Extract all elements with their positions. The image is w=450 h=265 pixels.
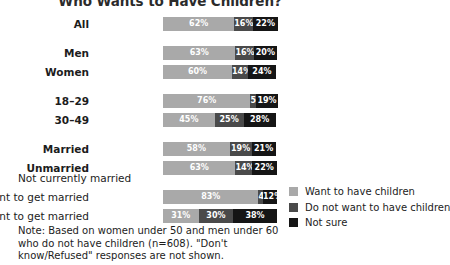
stacked-bar: 31%30%38% <box>163 209 278 223</box>
chart-row: 18–2976%5%19% <box>0 94 300 108</box>
chart-row-label: 18–29 <box>55 94 89 108</box>
chart-row: 30–4945%25%28% <box>0 113 300 127</box>
page-title: Who Wants to Have Children? <box>0 0 340 9</box>
stacked-bar: 83%4%12% <box>163 190 278 204</box>
legend-label: Do not want to have children <box>305 201 450 214</box>
chart-footnote: Note: Based on women under 50 and men un… <box>18 225 280 263</box>
bar-segment-want-to-have-children: 83% <box>163 190 258 204</box>
bar-segment-not-sure: 28% <box>244 113 276 127</box>
stacked-bar: 60%14%24% <box>163 65 278 79</box>
bar-segment-not-sure: 38% <box>233 209 277 223</box>
chart-row-label: Men <box>64 46 89 60</box>
stacked-bar: 63%16%20% <box>163 46 278 60</box>
chart-row: Married58%19%21% <box>0 142 300 156</box>
stacked-bar: 62%16%22% <box>163 17 278 31</box>
legend-item: Want to have children <box>289 185 447 198</box>
stacked-bar: 58%19%21% <box>163 142 278 156</box>
bar-segment-do-not-want-to-have-children: 16% <box>234 17 252 31</box>
chart-row-label: All <box>74 17 89 31</box>
bar-segment-do-not-want-to-have-children: 14% <box>232 65 248 79</box>
bar-segment-want-to-have-children: 60% <box>163 65 232 79</box>
chart-row-label: 30–49 <box>55 113 89 127</box>
bar-segment-want-to-have-children: 76% <box>163 94 250 108</box>
bar-segment-do-not-want-to-have-children: 25% <box>215 113 244 127</box>
bar-segment-want-to-have-children: 58% <box>163 142 230 156</box>
legend-swatch-icon <box>289 218 298 227</box>
bar-segment-want-to-have-children: 62% <box>163 17 234 31</box>
legend-label: Want to have children <box>305 185 415 198</box>
bar-segment-not-sure: 20% <box>254 46 277 60</box>
bar-segment-not-sure: 24% <box>248 65 276 79</box>
chart-row-label: Want to get married <box>0 190 89 204</box>
bar-segment-not-sure: 21% <box>252 142 276 156</box>
stacked-bar: 63%14%22% <box>163 161 278 175</box>
bar-segment-want-to-have-children: 31% <box>163 209 199 223</box>
legend-item: Not sure <box>289 216 447 229</box>
bar-segment-do-not-want-to-have-children: 19% <box>230 142 252 156</box>
bar-segment-want-to-have-children: 63% <box>163 46 235 60</box>
bar-segment-not-sure: 19% <box>256 94 278 108</box>
bar-segment-want-to-have-children: 63% <box>163 161 235 175</box>
stacked-bar: 45%25%28% <box>163 113 278 127</box>
chart-row-label: Married <box>43 142 89 156</box>
chart-row: Want to get married83%4%12% <box>0 190 300 204</box>
chart-row-label: Do not want to get married <box>0 209 89 223</box>
chart-row-label: Women <box>45 65 89 79</box>
legend-label: Not sure <box>305 216 347 229</box>
chart-row: Men63%16%20% <box>0 46 300 60</box>
bar-segment-do-not-want-to-have-children: 16% <box>235 46 253 60</box>
legend-swatch-icon <box>289 187 298 196</box>
chart-row: Women60%14%24% <box>0 65 300 79</box>
stacked-bar: 76%5%19% <box>163 94 278 108</box>
chart-legend: Want to have childrenDo not want to have… <box>289 185 447 232</box>
bar-segment-do-not-want-to-have-children: 30% <box>199 209 234 223</box>
chart-row: All62%16%22% <box>0 17 300 31</box>
bar-segment-want-to-have-children: 45% <box>163 113 215 127</box>
bar-segment-do-not-want-to-have-children: 14% <box>235 161 251 175</box>
bar-segment-not-sure: 22% <box>252 161 277 175</box>
bar-segment-not-sure: 22% <box>253 17 278 31</box>
chart-row: Do not want to get married31%30%38% <box>0 209 300 223</box>
group-header-not-currently-married: Not currently married <box>18 172 131 184</box>
bar-segment-not-sure: 12% <box>263 190 277 204</box>
legend-item: Do not want to have children <box>289 201 447 214</box>
legend-swatch-icon <box>289 203 298 212</box>
